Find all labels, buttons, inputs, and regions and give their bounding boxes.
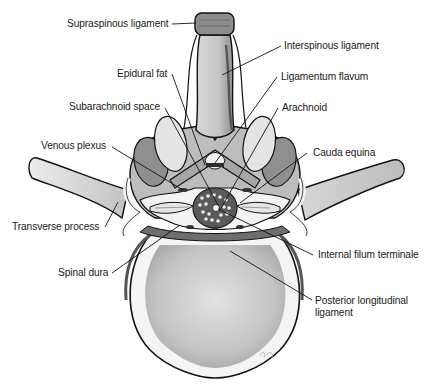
label-supraspinous-ligament: Supraspinous ligament bbox=[67, 18, 169, 30]
label-cauda-equina: Cauda equina bbox=[313, 147, 375, 159]
label-posterior-longitudinal-line2: ligament bbox=[315, 307, 408, 319]
spinous-process bbox=[184, 13, 246, 138]
label-subarachnoid-space: Subarachnoid space bbox=[69, 101, 160, 113]
label-venous-plexus: Venous plexus bbox=[41, 140, 106, 152]
label-internal-filum-terminale: Internal filum terminale bbox=[318, 249, 419, 261]
label-interspinous-ligament: Interspinous ligament bbox=[284, 40, 379, 52]
label-posterior-longitudinal-ligament: Posterior longitudinal ligament bbox=[315, 295, 408, 319]
label-transverse-process: Transverse process bbox=[12, 221, 99, 233]
vertebral-body bbox=[126, 235, 303, 378]
label-posterior-longitudinal-line1: Posterior longitudinal bbox=[315, 295, 408, 307]
label-spinal-dura: Spinal dura bbox=[58, 267, 108, 279]
label-arachnoid: Arachnoid bbox=[282, 102, 327, 114]
vertebra-illustration bbox=[0, 0, 429, 388]
anatomy-diagram: Supraspinous ligament Interspinous ligam… bbox=[0, 0, 429, 388]
label-ligamentum-flavum: Ligamentum flavum bbox=[281, 71, 368, 83]
label-epidural-fat: Epidural fat bbox=[117, 68, 167, 80]
